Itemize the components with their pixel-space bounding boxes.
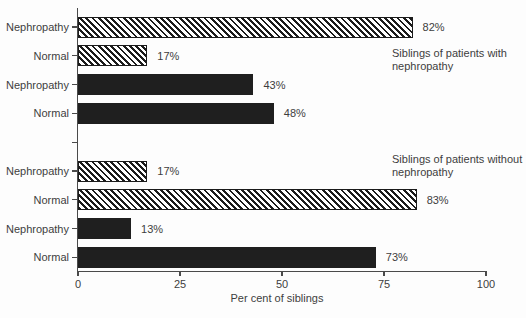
bar-value-label: 83% [427, 192, 449, 208]
bar-value-label: 82% [423, 19, 445, 35]
category-label: Nephropathy [0, 19, 69, 35]
bar-hatched [78, 17, 413, 38]
bar-chart-figure: 0255075100Nephropathy82%Normal17%Nephrop… [0, 0, 526, 318]
annotation-line: Siblings of patients without [392, 153, 522, 166]
bar-solid [78, 247, 376, 268]
bar-value-label: 17% [157, 48, 179, 64]
x-tick-label: 100 [472, 276, 500, 292]
category-label: Normal [0, 48, 69, 64]
x-tick-label: 0 [64, 276, 92, 292]
bar-solid [78, 74, 253, 95]
x-axis-title: Per cent of siblings [177, 290, 377, 306]
category-label: Normal [0, 105, 69, 121]
annotation-line: Siblings of patients with [392, 47, 507, 60]
category-label: Nephropathy [0, 163, 69, 179]
annotation-line: nephropathy [392, 166, 522, 179]
group-separator-tick [72, 142, 78, 143]
category-label: Normal [0, 249, 69, 265]
bar-value-label: 17% [157, 163, 179, 179]
category-label: Normal [0, 192, 69, 208]
bar-solid [78, 103, 274, 124]
category-label: Nephropathy [0, 77, 69, 93]
annotation-line: nephropathy [392, 60, 507, 73]
category-label: Nephropathy [0, 221, 69, 237]
annotation-with-nephropathy: Siblings of patients with nephropathy [392, 47, 507, 73]
bar-hatched [78, 45, 147, 66]
bar-value-label: 43% [263, 77, 285, 93]
annotation-without-nephropathy: Siblings of patients without nephropathy [392, 153, 522, 179]
bar-hatched [78, 189, 417, 210]
bar-hatched [78, 161, 147, 182]
bar-value-label: 48% [284, 105, 306, 121]
bar-value-label: 13% [141, 221, 163, 237]
bar-solid [78, 218, 131, 239]
bar-value-label: 73% [386, 249, 408, 265]
